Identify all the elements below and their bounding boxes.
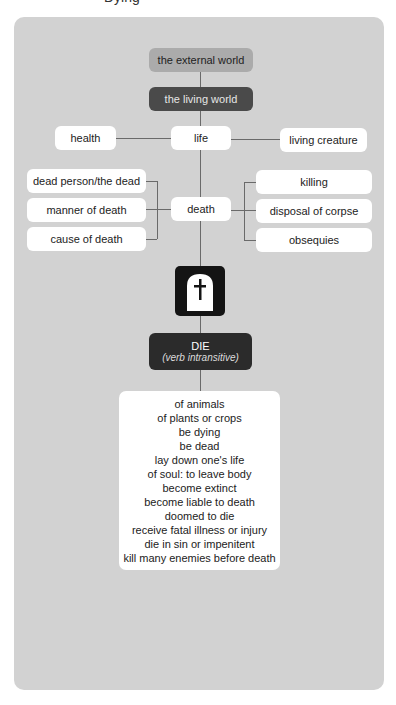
- gravestone-cross-icon: [175, 266, 225, 316]
- list-item: die in sin or impenitent: [119, 537, 280, 551]
- node-dead-person: dead person/the dead: [27, 169, 146, 193]
- connector-left-bottom: [146, 239, 157, 240]
- list-item: of soul: to leave body: [119, 467, 280, 481]
- connector-right-bottom: [244, 240, 256, 241]
- node-death: death: [171, 197, 231, 221]
- list-item: receive fatal illness or injury: [119, 523, 280, 537]
- page-title-cutoff: Dying: [104, 0, 140, 5]
- list-item: kill many enemies before death: [119, 551, 280, 565]
- connector-left-mid: [146, 209, 171, 210]
- node-living-world: the living world: [149, 87, 253, 111]
- list-item: be dying: [119, 425, 280, 439]
- list-item: become liable to death: [119, 495, 280, 509]
- connector-right-top: [244, 182, 256, 183]
- node-disposal-of-corpse: disposal of corpse: [256, 199, 372, 223]
- list-item: lay down one's life: [119, 453, 280, 467]
- node-health: health: [55, 126, 116, 150]
- list-item: doomed to die: [119, 509, 280, 523]
- connector-right-mid: [231, 210, 256, 211]
- senses-list: of animals of plants or crops be dying b…: [119, 391, 280, 570]
- connector-left-top: [146, 181, 157, 182]
- node-living-creature: living creature: [280, 128, 367, 152]
- list-item: be dead: [119, 439, 280, 453]
- list-item: of plants or crops: [119, 411, 280, 425]
- node-obsequies: obsequies: [256, 228, 372, 252]
- node-cause-of-death: cause of death: [27, 227, 146, 251]
- node-life: life: [171, 126, 231, 150]
- connector-left-bracket: [157, 181, 158, 239]
- node-die: DIE (verb intransitive): [149, 333, 252, 370]
- list-item: of animals: [119, 397, 280, 411]
- die-subtitle: (verb intransitive): [162, 352, 239, 363]
- connector-life-creature: [231, 139, 280, 140]
- connector-health-life: [116, 138, 171, 139]
- node-killing: killing: [256, 170, 372, 194]
- connector-right-bracket: [244, 182, 245, 240]
- node-external-world: the external world: [149, 48, 253, 72]
- list-item: become extinct: [119, 481, 280, 495]
- node-manner-of-death: manner of death: [27, 198, 146, 222]
- die-title: DIE: [191, 340, 209, 352]
